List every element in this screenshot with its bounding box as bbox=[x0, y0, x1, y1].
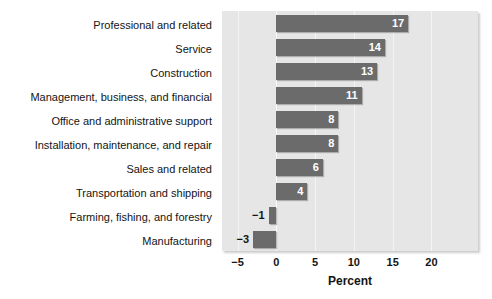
category-label: Manufacturing bbox=[0, 235, 218, 247]
category-label: Farming, fishing, and forestry bbox=[0, 211, 218, 223]
bar: 6 bbox=[276, 159, 323, 176]
bar: 8 bbox=[276, 111, 338, 128]
x-tick-label: −5 bbox=[231, 256, 244, 268]
x-tick-label: 20 bbox=[425, 256, 437, 268]
category-label: Sales and related bbox=[0, 163, 218, 175]
bar: 4 bbox=[276, 183, 307, 200]
bar bbox=[269, 207, 277, 224]
category-axis-labels: Professional and relatedServiceConstruct… bbox=[0, 12, 218, 251]
bar-value-label: 14 bbox=[369, 42, 381, 53]
gridline bbox=[238, 11, 239, 251]
bar-value-label: 4 bbox=[297, 186, 303, 197]
category-label: Installation, maintenance, and repair bbox=[0, 139, 218, 151]
category-label: Professional and related bbox=[0, 19, 218, 31]
category-label: Office and administrative support bbox=[0, 115, 218, 127]
gridline bbox=[431, 11, 432, 251]
bar: 17 bbox=[276, 15, 408, 32]
bar-value-label: 13 bbox=[361, 66, 373, 77]
category-label: Construction bbox=[0, 67, 218, 79]
bar-value-label: −3 bbox=[236, 234, 249, 245]
bar bbox=[253, 231, 276, 248]
x-tick-label: 5 bbox=[312, 256, 318, 268]
x-tick-label: 15 bbox=[387, 256, 399, 268]
bar: 8 bbox=[276, 135, 338, 152]
bar: 13 bbox=[276, 63, 377, 80]
bar-value-label: −1 bbox=[252, 210, 265, 221]
category-label: Transportation and shipping bbox=[0, 187, 218, 199]
x-axis-tick-labels: −505101520 bbox=[222, 256, 478, 270]
gridline bbox=[393, 11, 394, 251]
bar-value-label: 8 bbox=[328, 138, 334, 149]
bar: 14 bbox=[276, 39, 385, 56]
bar: 11 bbox=[276, 87, 361, 104]
x-tick-label: 10 bbox=[348, 256, 360, 268]
bar-chart: Professional and relatedServiceConstruct… bbox=[0, 0, 492, 299]
x-axis-title: Percent bbox=[222, 274, 478, 288]
x-tick-label: 0 bbox=[273, 256, 279, 268]
bar-value-label: 8 bbox=[328, 114, 334, 125]
category-label: Service bbox=[0, 43, 218, 55]
bar-value-label: 17 bbox=[392, 18, 404, 29]
category-label: Management, business, and financial bbox=[0, 91, 218, 103]
plot-area: 171413118864−1−3 bbox=[222, 11, 478, 251]
bar-value-label: 6 bbox=[313, 162, 319, 173]
bar-value-label: 11 bbox=[346, 90, 358, 101]
